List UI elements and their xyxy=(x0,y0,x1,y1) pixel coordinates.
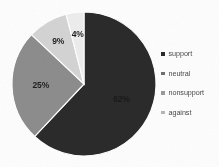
chart-legend: support neutral nonsupport against xyxy=(161,44,219,122)
legend-item-support[interactable]: support xyxy=(161,44,219,64)
pie-slice-value-label: 62% xyxy=(113,94,130,104)
pie-slice-value-label: 25% xyxy=(33,80,50,90)
legend-item-against[interactable]: against xyxy=(161,103,219,123)
legend-item-label: support xyxy=(169,50,193,57)
legend-swatch-icon xyxy=(161,52,165,56)
legend-item-label: against xyxy=(169,109,192,116)
legend-item-neutral[interactable]: neutral xyxy=(161,64,219,84)
legend-item-nonsupport[interactable]: nonsupport xyxy=(161,83,219,103)
legend-item-label: neutral xyxy=(169,70,191,77)
pie-slice-value-label: 9% xyxy=(52,36,65,46)
pie-chart-figure: 62%25%9%4% support neutral nonsupport ag… xyxy=(0,0,219,167)
legend-swatch-icon xyxy=(161,111,165,115)
pie-slice-value-label: 4% xyxy=(72,29,85,39)
legend-swatch-icon xyxy=(161,91,165,95)
legend-swatch-icon xyxy=(161,72,165,76)
legend-item-label: nonsupport xyxy=(169,89,204,96)
